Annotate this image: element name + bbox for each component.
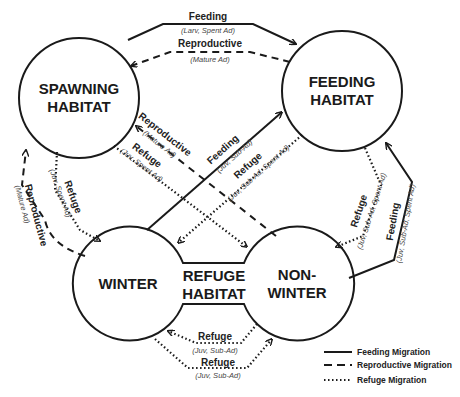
nonwinter-label-2: WINTER: [267, 284, 326, 301]
migration-diagram: SPAWNING HABITAT FEEDING HABITAT WINTER …: [0, 0, 460, 397]
edge-feed-to-spawn: Reproductive (Mature Ad): [131, 38, 290, 66]
svg-text:Refuge Migration: Refuge Migration: [357, 375, 426, 385]
legend-refuge: Refuge Migration: [324, 375, 426, 385]
nonwinter-label-1: NON-: [278, 266, 316, 283]
svg-text:(Juv, Sub-Ad): (Juv, Sub-Ad): [192, 346, 238, 355]
edge-feed-to-nonwinter: Refuge (Juv, Sub-Ad, Spent Ad): [336, 148, 388, 251]
edge-spawn-to-winter: Refuge (Juv, Spent Ad): [47, 152, 100, 241]
spawning-label-2: HABITAT: [47, 98, 111, 115]
legend-reproductive: Reproductive Migration: [324, 360, 452, 370]
spawning-label-1: SPAWNING: [39, 80, 120, 97]
winter-label: WINTER: [98, 275, 157, 292]
feeding-habitat-node: FEEDING HABITAT: [282, 31, 402, 151]
feeding-label-1: FEEDING: [309, 73, 376, 90]
svg-text:Reproductive: Reproductive: [178, 38, 242, 49]
svg-text:Feeding: Feeding: [189, 11, 227, 22]
refuge-habitat-node: WINTER REFUGE HABITAT NON- WINTER: [73, 227, 354, 341]
legend-feeding: Feeding Migration: [324, 347, 430, 357]
legend: Feeding Migration Reproductive Migration…: [324, 347, 452, 385]
svg-text:Refuge: Refuge: [198, 331, 232, 342]
spawning-habitat-node: SPAWNING HABITAT: [19, 38, 139, 158]
refuge-label-1: REFUGE: [183, 267, 246, 284]
svg-text:Refuge: Refuge: [201, 357, 235, 368]
svg-text:(Juv, Sub-Ad): (Juv, Sub-Ad): [195, 371, 241, 380]
refuge-label-2: HABITAT: [182, 285, 246, 302]
svg-text:(Mature Ad): (Mature Ad): [190, 55, 230, 64]
edge-nonwinter-to-winter: Refuge (Juv, Sub-Ad): [168, 324, 257, 355]
svg-text:Reproductive Migration: Reproductive Migration: [357, 360, 452, 370]
feeding-label-2: HABITAT: [310, 91, 374, 108]
svg-text:(Larv, Spent Ad): (Larv, Spent Ad): [181, 26, 235, 35]
svg-text:Feeding Migration: Feeding Migration: [357, 347, 430, 357]
